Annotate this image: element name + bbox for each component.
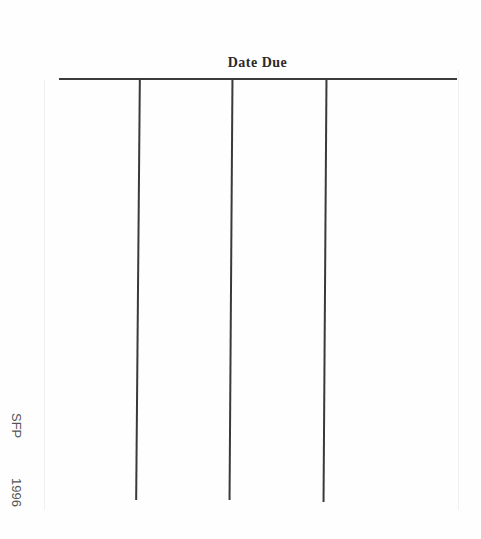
column-divider-3 bbox=[323, 79, 328, 502]
date-due-slip: Date Due SFP 1996 bbox=[0, 0, 481, 539]
paper-edge-left bbox=[44, 80, 45, 510]
stamp-label: SFP bbox=[9, 413, 24, 438]
paper-edge-right bbox=[458, 70, 459, 510]
stamp-year: 1996 bbox=[9, 478, 24, 507]
header-rule bbox=[59, 78, 457, 80]
column-divider-1 bbox=[135, 79, 140, 500]
date-due-heading: Date Due bbox=[0, 55, 481, 71]
column-divider-2 bbox=[229, 79, 234, 500]
